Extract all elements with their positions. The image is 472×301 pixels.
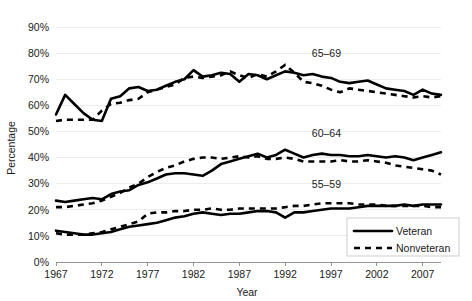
series-group-label: 60–64 — [312, 127, 341, 139]
series-group-label: 65–69 — [312, 47, 341, 59]
legend-label-veteran[interactable]: Veteran — [396, 225, 432, 237]
y-tick-label: 20% — [28, 204, 49, 216]
y-tick-label: 60% — [28, 99, 49, 111]
y-axis-title: Percentage — [5, 121, 17, 175]
x-tick-label: 1997 — [319, 268, 343, 280]
line-chart: 0%10%20%30%40%50%60%70%80%90% 1967197219… — [0, 0, 472, 301]
x-axis-title: Year — [236, 286, 258, 298]
y-tick-label: 0% — [34, 256, 49, 268]
x-tick-label: 2007 — [411, 268, 435, 280]
x-tick-label: 1987 — [228, 268, 252, 280]
legend[interactable]: VeteranNonveteran — [347, 218, 459, 256]
x-tick-label: 1992 — [273, 268, 297, 280]
chart-container: 0%10%20%30%40%50%60%70%80%90% 1967197219… — [0, 0, 472, 301]
x-tick-label: 1967 — [44, 268, 68, 280]
legend-label-nonveteran[interactable]: Nonveteran — [396, 242, 450, 254]
x-tick-label: 2002 — [365, 268, 389, 280]
y-tick-label: 10% — [28, 230, 49, 242]
y-tick-label: 30% — [28, 177, 49, 189]
y-tick-label: 90% — [28, 21, 49, 33]
y-tick-label: 70% — [28, 73, 49, 85]
x-axis-tick-labels: 196719721977198219871992199720022007 — [44, 268, 434, 280]
y-tick-label: 80% — [28, 47, 49, 59]
y-tick-label: 40% — [28, 151, 49, 163]
x-tick-label: 1982 — [182, 268, 206, 280]
x-tick-label: 1972 — [90, 268, 114, 280]
x-tick-label: 1977 — [136, 268, 160, 280]
series-group-label: 55–59 — [312, 178, 341, 190]
y-tick-label: 50% — [28, 125, 49, 137]
